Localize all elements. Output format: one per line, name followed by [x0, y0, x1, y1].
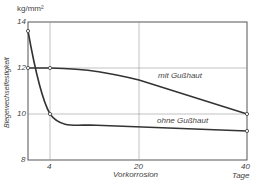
y-axis-label: Biegewechselfestigkeit	[3, 57, 10, 128]
x-tick-40: 40	[241, 162, 250, 171]
y-tick-12: 12	[17, 63, 26, 72]
x-axis-label: Vorkorrosion	[113, 170, 158, 179]
x-tick-4: 4	[47, 162, 51, 171]
y-tick-10: 10	[17, 109, 26, 118]
chart-plot	[0, 0, 256, 183]
x-unit-label: Tage	[232, 171, 250, 180]
legend-mit-gusshaut: mit Gußhaut	[158, 71, 202, 80]
y-tick-14: 14	[17, 17, 26, 26]
y-unit-label: kg/mm²	[17, 4, 44, 13]
legend-ohne-gusshaut: ohne Gußhaut	[157, 116, 208, 125]
series-mit-gusshaut	[28, 68, 247, 114]
series-ohne-gusshaut	[28, 31, 247, 131]
y-tick-8: 8	[21, 155, 25, 164]
